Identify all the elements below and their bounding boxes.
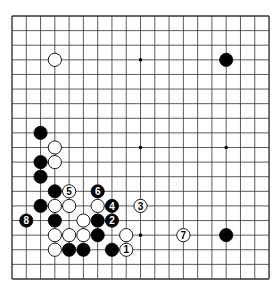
- black-stone-move-8: 8: [20, 214, 33, 227]
- white-stone: [48, 199, 61, 212]
- black-stone: [48, 185, 61, 198]
- stone-circle: [220, 229, 233, 242]
- black-stone-move-2: 2: [105, 214, 118, 227]
- board-background: [0, 0, 280, 290]
- black-stone: [48, 214, 61, 227]
- stone-circle: [48, 229, 61, 242]
- stone-circle: [77, 214, 90, 227]
- stone-circle: [91, 199, 104, 212]
- black-stone: [105, 243, 118, 256]
- go-board[interactable]: 56438271: [0, 0, 280, 290]
- stone-circle: [63, 243, 76, 256]
- white-stone: [120, 229, 133, 242]
- black-stone: [91, 229, 104, 242]
- move-number-label: 6: [95, 186, 101, 197]
- black-stone: [91, 214, 104, 227]
- stone-circle: [77, 243, 90, 256]
- stone-circle: [63, 199, 76, 212]
- white-stone: [48, 156, 61, 169]
- black-stone-move-4: 4: [105, 199, 118, 212]
- stone-circle: [220, 53, 233, 66]
- stone-circle: [48, 53, 61, 66]
- black-stone: [34, 199, 47, 212]
- move-number-label: 1: [123, 244, 129, 255]
- white-stone: [63, 199, 76, 212]
- white-stone: [63, 229, 76, 242]
- stone-circle: [63, 229, 76, 242]
- stone-circle: [48, 214, 61, 227]
- white-stone: [77, 214, 90, 227]
- black-stone: [77, 243, 90, 256]
- stone-circle: [34, 199, 47, 212]
- move-number-label: 5: [66, 186, 72, 197]
- white-stone: [48, 229, 61, 242]
- black-stone: [220, 229, 233, 242]
- stone-circle: [91, 214, 104, 227]
- star-point: [139, 233, 143, 237]
- white-stone-move-3: 3: [134, 199, 147, 212]
- black-stone: [34, 126, 47, 139]
- star-point: [224, 146, 228, 150]
- stone-circle: [48, 156, 61, 169]
- white-stone: [48, 53, 61, 66]
- stone-circle: [34, 126, 47, 139]
- stone-circle: [48, 199, 61, 212]
- white-stone: [91, 199, 104, 212]
- move-number-label: 3: [138, 201, 144, 212]
- stone-circle: [34, 156, 47, 169]
- white-stone: [77, 229, 90, 242]
- stone-circle: [105, 243, 118, 256]
- stone-circle: [48, 243, 61, 256]
- stone-circle: [48, 141, 61, 154]
- white-stone-move-7: 7: [177, 229, 190, 242]
- stone-circle: [120, 229, 133, 242]
- black-stone: [220, 53, 233, 66]
- black-stone: [34, 170, 47, 183]
- stone-circle: [48, 185, 61, 198]
- black-stone-move-6: 6: [91, 185, 104, 198]
- black-stone: [63, 243, 76, 256]
- white-stone-move-5: 5: [63, 185, 76, 198]
- move-number-label: 2: [109, 215, 115, 226]
- move-number-label: 4: [109, 201, 115, 212]
- white-stone: [48, 141, 61, 154]
- white-stone: [48, 243, 61, 256]
- black-stone: [34, 156, 47, 169]
- stone-circle: [77, 229, 90, 242]
- move-number-label: 8: [23, 215, 29, 226]
- stone-circle: [91, 229, 104, 242]
- move-number-label: 7: [181, 230, 187, 241]
- star-point: [139, 146, 143, 150]
- stone-circle: [34, 170, 47, 183]
- white-stone-move-1: 1: [120, 243, 133, 256]
- star-point: [139, 58, 143, 62]
